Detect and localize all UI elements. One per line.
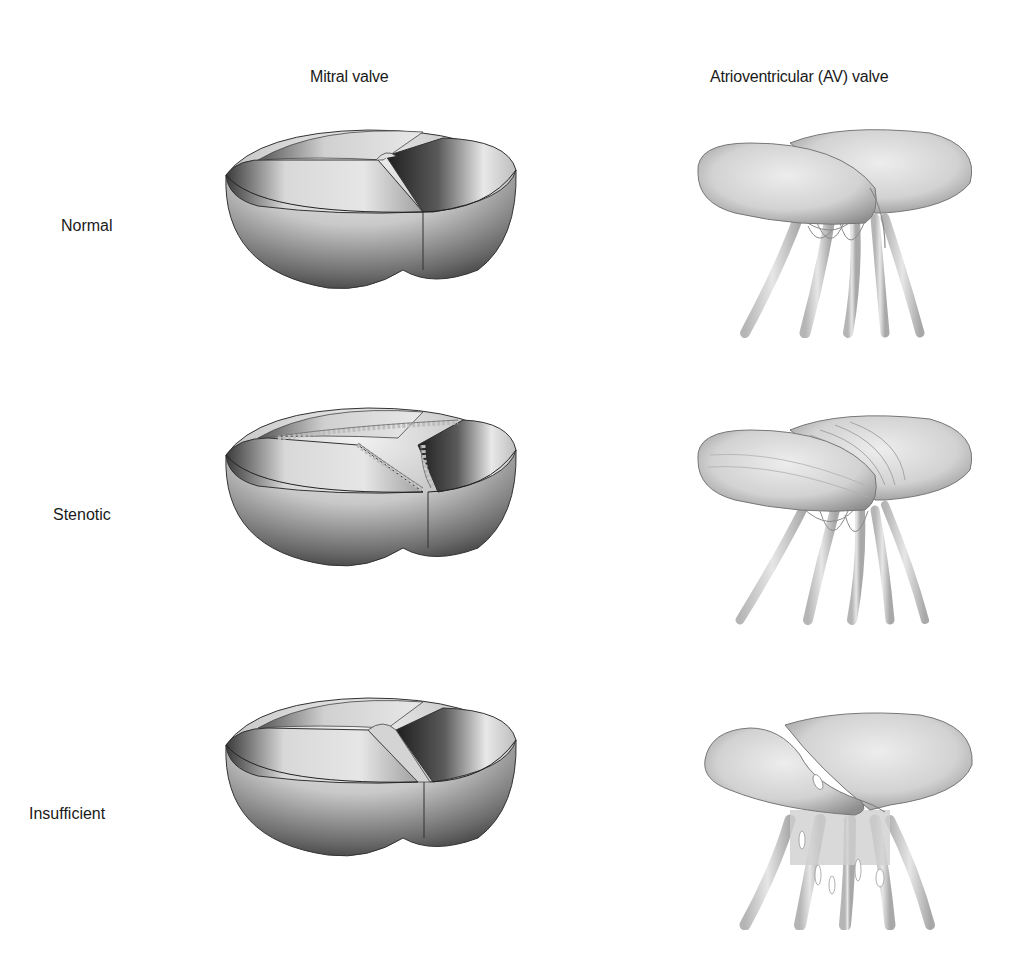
row-label-stenotic: Stenotic (53, 506, 111, 524)
mitral-valve-stenotic-illustration (218, 400, 518, 572)
column-header-mitral-valve: Mitral valve (310, 68, 389, 86)
mitral-valve-normal-illustration (218, 120, 518, 295)
column-header-av-valve: Atrioventricular (AV) valve (710, 68, 888, 86)
av-valve-stenotic-illustration (680, 405, 980, 625)
mitral-valve-insufficient-illustration (218, 690, 518, 860)
av-valve-normal-illustration (680, 118, 980, 338)
row-label-insufficient: Insufficient (29, 805, 105, 823)
av-valve-insufficient-illustration (690, 700, 980, 930)
row-label-normal: Normal (61, 217, 113, 235)
